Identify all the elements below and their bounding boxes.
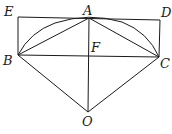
label-D: D xyxy=(160,5,172,20)
label-F: F xyxy=(90,40,101,55)
geometry-diagram: E A D B F C O xyxy=(0,0,172,134)
label-A: A xyxy=(82,3,92,18)
segment-DC xyxy=(159,20,160,57)
segment-AO xyxy=(88,18,89,112)
label-E: E xyxy=(3,4,14,19)
segment-OC xyxy=(88,57,159,112)
label-O: O xyxy=(82,114,93,129)
label-C: C xyxy=(160,56,170,71)
label-B: B xyxy=(2,53,13,68)
segment-OB xyxy=(18,55,88,112)
